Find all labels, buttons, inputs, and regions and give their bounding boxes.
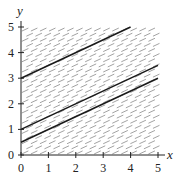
slope-segment [90,146,97,149]
slope-segment [31,141,38,144]
slope-segment [58,69,65,72]
slope-segment [22,38,29,41]
slope-segment [31,89,38,92]
slope-segment [126,33,133,36]
slope-segment [40,141,47,144]
slope-segment [26,43,33,46]
slope-segment [67,38,74,41]
slope-segment [135,136,142,139]
slope-segment [53,136,60,139]
slope-segment [121,49,128,52]
slope-segment [94,141,101,144]
slope-segment [139,79,146,82]
slope-segment [121,38,128,41]
slope-segment [31,59,38,62]
slope-segment [53,105,60,108]
slope-segment [76,120,83,123]
slope-segment [144,105,151,108]
slope-segment [53,115,60,118]
slope-segment [40,89,47,92]
slope-segment [117,74,124,77]
slope-segment [35,105,42,108]
slope-segment [81,95,88,98]
slope-segment [112,120,119,123]
slope-segment [126,146,133,149]
slope-segment [53,43,60,46]
slope-segment [72,74,79,77]
slope-segment [72,64,79,67]
slope-segment [40,28,47,31]
slope-segment [76,59,83,62]
slope-segment [44,84,51,87]
slope-segment [103,151,110,154]
slope-segment [53,95,60,98]
slope-segment [126,54,133,57]
x-tick-label: 4 [128,161,134,175]
slope-segment [153,84,160,87]
slope-segment [94,28,101,31]
slope-segment [72,33,79,36]
slope-segment [90,54,97,57]
slope-segment [85,69,92,72]
slope-segment [148,38,155,41]
slope-segment [44,43,51,46]
slope-segment [63,74,70,77]
slope-segment [99,43,106,46]
slope-segment [126,136,133,139]
slope-segment [35,64,42,67]
slope-segment [67,89,74,92]
slope-segment [85,28,92,31]
slope-segment [103,69,110,72]
solution-curve-2 [21,65,158,129]
slope-segment [108,105,115,108]
slope-segment [130,79,137,82]
slope-segment [76,28,83,31]
slope-segment [130,110,137,113]
slope-segment [40,38,47,41]
slope-segment [90,136,97,139]
slope-segment [63,125,70,128]
slope-segment [94,59,101,62]
direction-field [22,28,160,154]
slope-segment [22,151,29,154]
slope-segment [103,28,110,31]
slope-segment [49,89,56,92]
slope-segment [63,64,70,67]
slope-segment [108,43,115,46]
slope-segment [94,151,101,154]
slope-segment [49,100,56,103]
slope-segment [108,74,115,77]
slope-segment [81,146,88,149]
slope-segment [144,95,151,98]
slope-segment [112,28,119,31]
slope-segment [130,141,137,144]
slope-segment [121,130,128,133]
slope-segment [49,38,56,41]
slope-segment [108,95,115,98]
slope-segment [108,115,115,118]
y-tick-label: 1 [8,122,14,136]
slope-segment [44,146,51,149]
slope-segment [99,64,106,67]
y-tick-label: 5 [8,20,14,34]
slope-segment [153,74,160,77]
slope-segment [85,100,92,103]
slope-segment [85,38,92,41]
slope-segment [26,105,33,108]
slope-segment [49,49,56,52]
slope-segment [148,141,155,144]
x-axis-label: x [166,147,173,162]
slope-segment [40,59,47,62]
slope-segment [49,141,56,144]
slope-segment [63,115,70,118]
slope-segment [130,38,137,41]
slope-segment [40,151,47,154]
slope-segment [81,125,88,128]
slope-segment [153,95,160,98]
slope-segment [76,69,83,72]
slope-segment [22,100,29,103]
slope-field-chart: 012345012345 x y [0,0,179,180]
slope-segment [144,146,151,149]
slope-segment [76,38,83,41]
slope-segment [99,125,106,128]
